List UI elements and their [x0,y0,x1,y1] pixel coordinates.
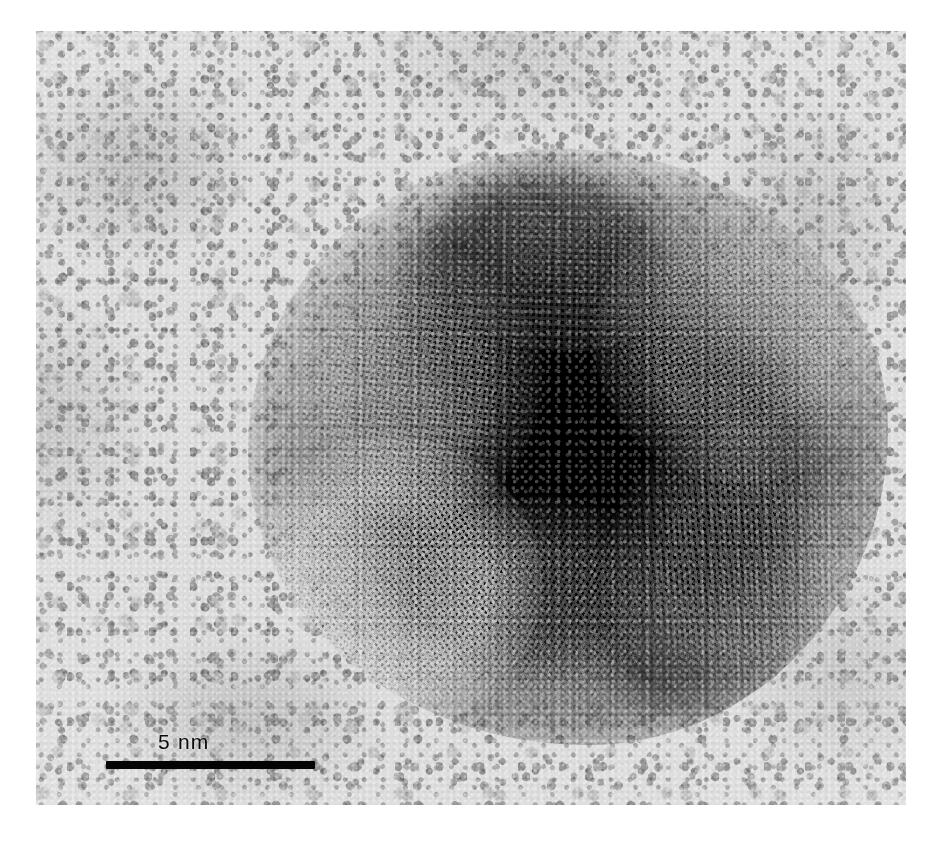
scale-bar-line [106,761,315,769]
electron-micrograph-image: 5 nm [36,31,906,805]
scale-bar: 5 nm [106,730,320,769]
nanoparticle [248,149,888,745]
particle-speckle-noise [248,149,888,745]
micrograph-figure: 5 nm [0,0,942,846]
scale-bar-label: 5 nm [158,730,320,754]
